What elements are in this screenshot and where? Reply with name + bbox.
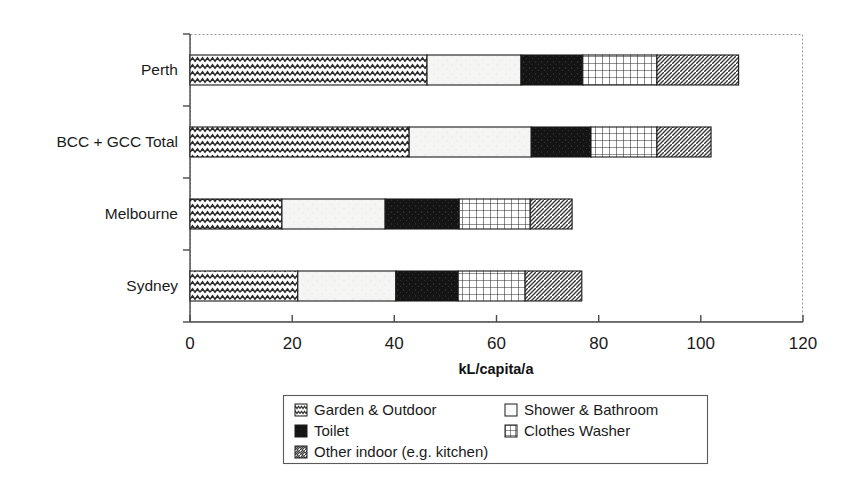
stacked-bar	[190, 199, 572, 229]
legend-label-other-indoor: Other indoor (e.g. kitchen)	[314, 443, 488, 460]
x-tick-label: 120	[789, 334, 817, 353]
bar-segment	[190, 55, 427, 85]
category-label-sydney: Sydney	[126, 277, 178, 294]
x-axis-title: kL/capita/a	[459, 361, 535, 377]
solid-dark-swatch	[295, 425, 307, 437]
bar-segment	[282, 199, 385, 229]
x-axis-tick-labels: 0 20 40 60 80 100 120	[185, 334, 817, 353]
water-use-stacked-bar-chart: 0 20 40 60 80 100 120 kL/capita/a Perth …	[0, 0, 849, 496]
x-tick-label: 60	[487, 334, 506, 353]
bar-segment	[530, 199, 572, 229]
bars-layer	[190, 55, 739, 301]
bar-segment	[657, 55, 739, 85]
stacked-bar	[190, 271, 582, 301]
bar-segment	[409, 127, 531, 157]
grid-swatch	[505, 425, 517, 437]
bar-segment	[298, 271, 396, 301]
stacked-bar	[190, 127, 711, 157]
bar-segment	[396, 271, 458, 301]
legend-label-toilet: Toilet	[314, 422, 350, 439]
category-label-bcc-gcc: BCC + GCC Total	[56, 133, 178, 150]
x-tick-label: 80	[589, 334, 608, 353]
bar-segment	[190, 127, 409, 157]
bar-segment	[531, 127, 591, 157]
x-axis-ticks	[190, 315, 803, 322]
bar-segment	[459, 199, 530, 229]
legend-label-shower-bathroom: Shower & Bathroom	[524, 401, 658, 418]
bar-segment	[525, 271, 582, 301]
x-tick-label: 0	[185, 334, 194, 353]
bar-segment	[190, 199, 282, 229]
bar-segment	[583, 55, 657, 85]
bar-segment	[190, 271, 298, 301]
legend-label-clothes-washer: Clothes Washer	[524, 422, 630, 439]
legend-label-garden-outdoor: Garden & Outdoor	[314, 401, 437, 418]
x-tick-label: 100	[687, 334, 715, 353]
category-label-melbourne: Melbourne	[105, 205, 178, 222]
bar-segment	[591, 127, 657, 157]
zigzag-swatch	[295, 404, 307, 416]
x-tick-label: 20	[283, 334, 302, 353]
diagonal-swatch	[295, 446, 307, 458]
bar-segment	[521, 55, 583, 85]
bar-segment	[458, 271, 525, 301]
x-tick-label: 40	[385, 334, 404, 353]
bar-segment	[427, 55, 521, 85]
y-axis-ticks	[183, 34, 190, 322]
category-label-perth: Perth	[141, 61, 178, 78]
light-dots-swatch	[505, 404, 517, 416]
bar-segment	[657, 127, 711, 157]
y-axis-category-labels: Perth BCC + GCC Total Melbourne Sydney	[56, 61, 178, 294]
stacked-bar	[190, 55, 739, 85]
chart-legend: Garden & Outdoor Toilet Other indoor (e.…	[284, 396, 708, 464]
bar-segment	[385, 199, 459, 229]
